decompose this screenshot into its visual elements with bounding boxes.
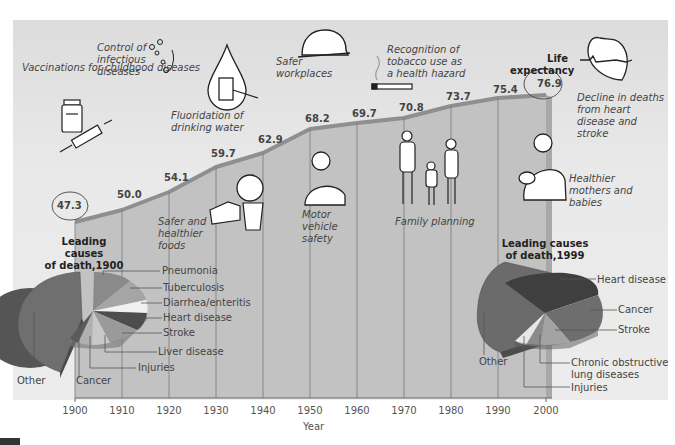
tick-1990: 1990	[478, 405, 518, 416]
value-1940: 62.9	[258, 134, 283, 145]
annotation-heart-disease-decline: Decline in deaths from heart disease and…	[577, 92, 669, 140]
tick-1940: 1940	[243, 405, 283, 416]
value-1970: 70.8	[399, 102, 424, 113]
value-1930: 59.7	[211, 148, 236, 159]
pie-1999-label-stroke: Stroke	[618, 324, 650, 336]
pie-1900-label-heart-disease: Heart disease	[163, 312, 232, 324]
glass-of-milk-icon	[243, 203, 263, 230]
vaccine-bottle-icon	[62, 100, 82, 132]
annotation-safer-foods: Safer and healthier foods	[158, 216, 228, 252]
x-axis-label: Year	[303, 421, 324, 432]
tick-1910: 1910	[102, 405, 142, 416]
pie-1900-title: Leading causesof death,1900	[44, 236, 124, 272]
value-1960: 69.7	[352, 108, 377, 119]
value-1999: 76.9	[537, 78, 562, 89]
value-1920: 54.1	[164, 172, 189, 183]
tick-1920: 1920	[149, 405, 189, 416]
pie-1999-label-heart-disease: Heart disease	[597, 274, 666, 286]
hard-hat-icon	[298, 30, 350, 57]
value-1910: 50.0	[117, 189, 142, 200]
pie-1900-label-injuries: Injuries	[138, 362, 175, 374]
value-1980: 73.7	[446, 91, 471, 102]
pie-1900-label-liver-disease: Liver disease	[158, 346, 224, 358]
cookie-icon	[237, 175, 263, 201]
annotation-infectious-diseases: Control of infectious diseases	[97, 42, 147, 78]
heart-icon	[580, 38, 632, 80]
tick-1960: 1960	[337, 405, 377, 416]
annotation-motor-vehicle-safety: Motor vehicle safety	[302, 209, 367, 245]
pie-1999-label-cancer: Cancer	[618, 304, 653, 316]
water-drop-icon	[208, 45, 258, 110]
pie-1900-label-stroke: Stroke	[163, 327, 195, 339]
pie-1900-label-tuberculosis: Tuberculosis	[163, 282, 224, 294]
life-expectancy-area	[75, 95, 546, 398]
pie-1999-label-other: Other	[479, 356, 507, 368]
value-1950: 68.2	[305, 113, 330, 124]
annotation-fluoridation: Fluoridation of drinking water	[171, 110, 246, 134]
annotation-safer-workplaces: Safer workplaces	[276, 56, 331, 80]
footer-bar	[0, 438, 20, 445]
value-1990: 75.4	[493, 84, 518, 95]
pie-1900-label-other: Other	[17, 375, 45, 387]
tick-1970: 1970	[384, 405, 424, 416]
tick-1930: 1930	[196, 405, 236, 416]
tick-1950: 1950	[290, 405, 330, 416]
annotation-family-planning: Family planning	[395, 216, 475, 228]
tick-2000: 2000	[526, 405, 566, 416]
pie-1900-label-pneumonia: Pneumonia	[162, 265, 218, 277]
annotation-tobacco: Recognition of tobacco use as a health h…	[387, 44, 467, 80]
tick-1980: 1980	[431, 405, 471, 416]
pie-1900-label-cancer: Cancer	[76, 375, 111, 387]
pie-1999-title: Leading causesof death,1999	[500, 238, 590, 262]
life-expectancy-title: Lifeexpectancy	[510, 53, 568, 77]
value-1900: 47.3	[57, 200, 82, 211]
tick-1900: 1900	[55, 405, 95, 416]
pie-1900-label-diarrhea: Diarrhea/enteritis	[163, 297, 251, 309]
pie-1999-label-copd: Chronic obstructivelung diseases	[571, 357, 668, 381]
annotation-healthier-mothers: Healthier mothers and babies	[569, 173, 659, 209]
pie-1999-label-injuries: Injuries	[571, 382, 608, 394]
